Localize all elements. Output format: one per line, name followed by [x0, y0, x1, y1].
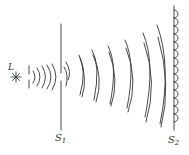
huygens-wavelets — [174, 10, 178, 122]
wavefronts-diffracted — [64, 25, 166, 127]
wavefronts-incident — [33, 64, 56, 90]
source-label: L — [7, 62, 14, 72]
light-source-star-icon — [11, 72, 21, 82]
screen-s1-label: S1 — [55, 132, 66, 145]
screen-s2-label: S2 — [168, 134, 180, 147]
diffraction-diagram: L S1 S2 — [0, 0, 189, 155]
